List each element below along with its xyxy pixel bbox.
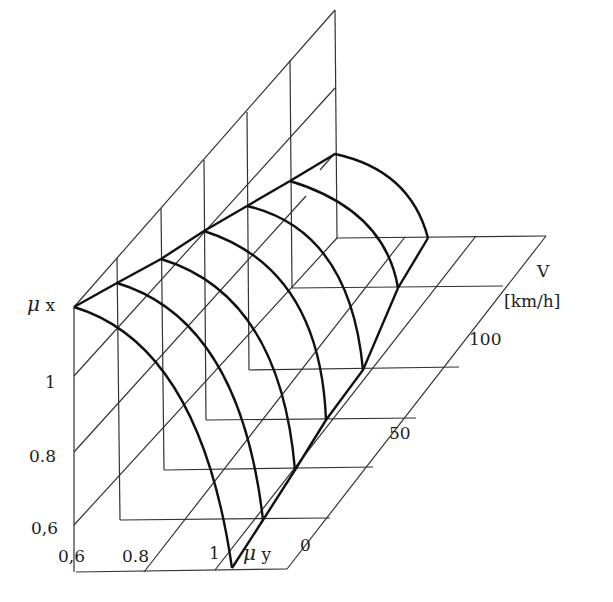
mu-x-axis-label: μ x xyxy=(27,294,55,314)
mu-x-symbol: μ xyxy=(27,292,40,316)
x-tick-1: 1 xyxy=(209,545,220,562)
x-tick-0-8: 0.8 xyxy=(122,548,149,565)
v-tick-0: 0 xyxy=(300,537,311,554)
mu-x-subscript: x xyxy=(45,295,55,315)
mu-y-subscript: y xyxy=(261,544,271,564)
v-tick-50: 50 xyxy=(389,425,411,442)
z-tick-0-6: 0,6 xyxy=(31,520,58,537)
mu-y-axis-label: μ y xyxy=(243,543,271,563)
x-tick-0-6: 0,6 xyxy=(58,548,85,565)
v-axis-unit: [km/h] xyxy=(504,293,560,310)
mu-y-symbol: μ xyxy=(243,541,256,565)
z-tick-0-8: 0.8 xyxy=(29,448,56,465)
v-tick-100: 100 xyxy=(469,331,501,348)
z-tick-1: 1 xyxy=(45,374,56,391)
grid-lines xyxy=(74,10,546,572)
v-axis-label: V xyxy=(537,263,549,280)
friction-surface xyxy=(74,154,428,568)
